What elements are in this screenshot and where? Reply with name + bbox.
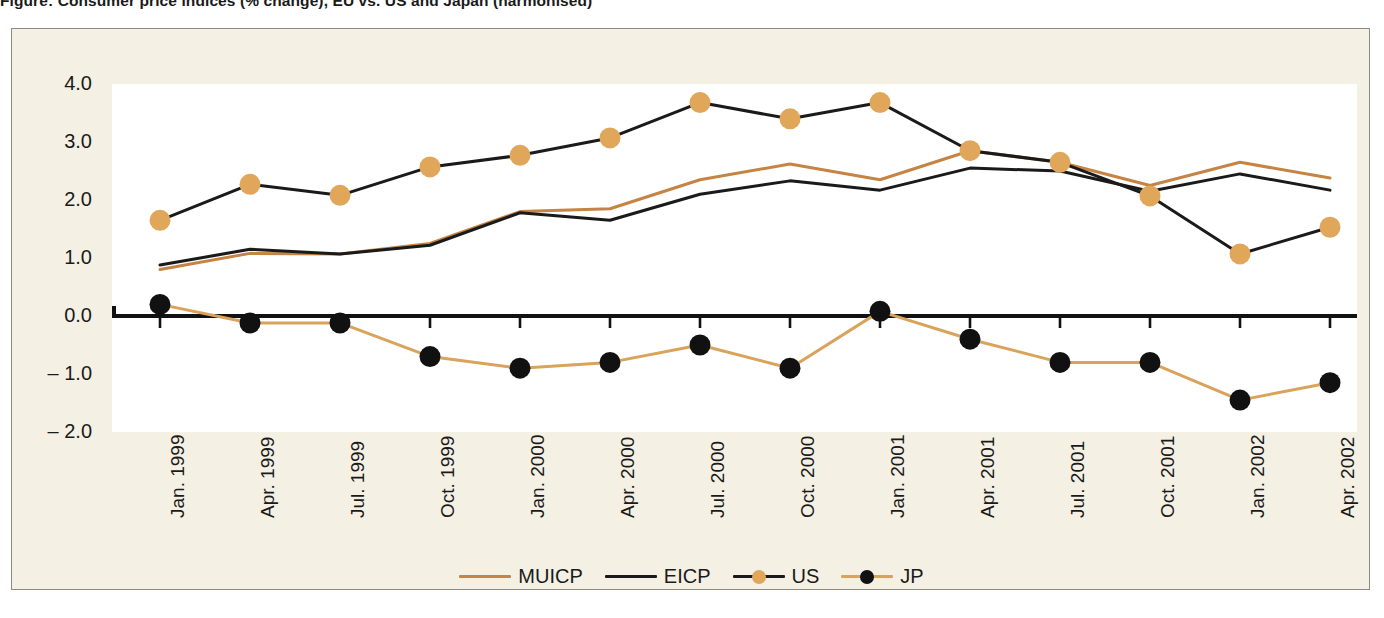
x-axis-tick-label: Jan. 2000 <box>527 435 549 518</box>
y-axis-tick-label: 1.0 <box>28 246 92 269</box>
x-axis-tick-label: Oct. 2000 <box>797 436 819 518</box>
data-point-us <box>1140 185 1161 206</box>
data-point-us <box>600 127 621 148</box>
y-axis-tick-label: 4.0 <box>28 72 92 95</box>
legend-item-muicp[interactable]: MUICP <box>459 565 582 588</box>
data-point-us <box>240 174 261 195</box>
x-axis-tick-label: Apr. 2002 <box>1337 437 1359 518</box>
series-line-us <box>160 103 1330 254</box>
data-point-us <box>1230 243 1251 264</box>
legend-label: US <box>792 565 820 588</box>
x-axis-tick-label: Jul. 2000 <box>707 441 729 518</box>
data-point-us <box>780 108 801 129</box>
data-point-jp <box>1050 352 1071 373</box>
data-point-us <box>420 156 441 177</box>
y-axis-tick-label: 3.0 <box>28 130 92 153</box>
data-point-jp <box>1320 372 1341 393</box>
figure-title: Figure: Consumer price indices (% change… <box>0 0 1384 16</box>
data-point-jp <box>240 312 261 333</box>
data-point-jp <box>1230 390 1251 411</box>
data-point-jp <box>780 358 801 379</box>
legend-item-eicp[interactable]: EICP <box>605 565 711 588</box>
x-axis-tick-label: Jul. 1999 <box>347 441 369 518</box>
data-point-jp <box>510 358 531 379</box>
legend-swatch-us-icon <box>733 569 785 585</box>
x-axis-tick-label: Jan. 2001 <box>887 435 909 518</box>
data-point-jp <box>600 352 621 373</box>
legend-line-icon <box>459 575 511 578</box>
data-point-us <box>330 185 351 206</box>
data-point-us <box>870 92 891 113</box>
x-axis-tick-label: Jul. 2001 <box>1067 441 1089 518</box>
data-point-jp <box>690 335 711 356</box>
legend-swatch-muicp-icon <box>459 569 511 585</box>
data-point-us <box>150 210 171 231</box>
legend-label: JP <box>900 565 923 588</box>
x-axis-tick-label: Apr. 2001 <box>977 437 999 518</box>
x-axis-tick-label: Oct. 2001 <box>1157 436 1179 518</box>
y-axis-tick-label: 0.0 <box>28 304 92 327</box>
series-line-eicp <box>160 168 1330 265</box>
legend-item-us[interactable]: US <box>733 565 820 588</box>
data-point-jp <box>1140 352 1161 373</box>
data-point-jp <box>330 312 351 333</box>
x-axis-tick-label: Jan. 1999 <box>167 435 189 518</box>
data-point-us <box>1320 217 1341 238</box>
chart-panel: 4.03.02.01.00.0– 1.0– 2.0 Jan. 1999Apr. … <box>11 28 1370 590</box>
y-axis-tick-label: – 1.0 <box>28 362 92 385</box>
series-canvas <box>112 84 1357 432</box>
x-axis-tick-label: Apr. 2000 <box>617 437 639 518</box>
legend-dot-icon <box>860 570 874 584</box>
legend-dot-icon <box>752 570 766 584</box>
data-point-us <box>960 140 981 161</box>
legend-label: MUICP <box>518 565 582 588</box>
y-axis-tick-label: 2.0 <box>28 188 92 211</box>
legend-item-jp[interactable]: JP <box>841 565 923 588</box>
data-point-jp <box>150 294 171 315</box>
data-point-jp <box>960 329 981 350</box>
y-axis-tick-label: – 2.0 <box>28 420 92 443</box>
x-axis-tick-label: Apr. 1999 <box>257 437 279 518</box>
data-point-us <box>510 145 531 166</box>
legend-label: EICP <box>664 565 711 588</box>
data-point-jp <box>870 301 891 322</box>
data-point-us <box>690 92 711 113</box>
x-axis-tick-label: Oct. 1999 <box>437 436 459 518</box>
x-axis-tick-label: Jan. 2002 <box>1247 435 1269 518</box>
legend-swatch-jp-icon <box>841 569 893 585</box>
plot-area <box>112 84 1357 432</box>
chart-page: Figure: Consumer price indices (% change… <box>0 0 1384 618</box>
chart-legend: MUICPEICPUSJP <box>12 565 1371 588</box>
legend-swatch-eicp-icon <box>605 569 657 585</box>
legend-line-icon <box>605 575 657 578</box>
data-point-jp <box>420 346 441 367</box>
data-point-us <box>1050 152 1071 173</box>
series-line-muicp <box>160 151 1330 270</box>
